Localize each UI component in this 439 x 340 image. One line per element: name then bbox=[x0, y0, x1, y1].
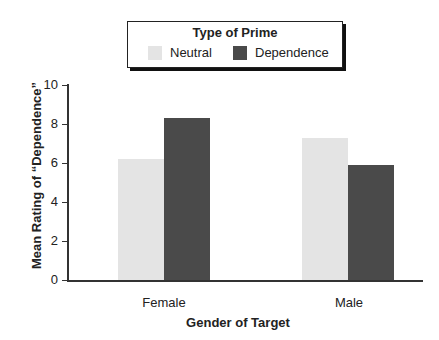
category-label-female: Female bbox=[124, 295, 204, 310]
legend: Type of Prime Neutral Dependence bbox=[127, 21, 343, 68]
legend-title: Type of Prime bbox=[128, 25, 342, 40]
y-tick-label: 4 bbox=[38, 194, 58, 209]
legend-label-neutral: Neutral bbox=[170, 45, 212, 60]
y-axis-line bbox=[67, 84, 69, 281]
bar-female-dependence bbox=[164, 118, 210, 280]
bar-female-neutral bbox=[118, 159, 164, 280]
y-tick-label: 6 bbox=[38, 155, 58, 170]
y-tick-label: 0 bbox=[38, 272, 58, 287]
legend-swatch-dependence bbox=[233, 46, 247, 60]
bar-male-dependence bbox=[348, 165, 394, 280]
x-axis-line bbox=[67, 280, 423, 282]
legend-label-dependence: Dependence bbox=[255, 45, 329, 60]
legend-item-neutral: Neutral bbox=[148, 45, 212, 60]
y-tick-label: 10 bbox=[38, 77, 58, 92]
legend-swatch-neutral bbox=[148, 46, 162, 60]
x-axis-label: Gender of Target bbox=[138, 315, 338, 330]
bar-male-neutral bbox=[302, 138, 348, 280]
y-tick-label: 2 bbox=[38, 233, 58, 248]
y-tick-label: 8 bbox=[38, 116, 58, 131]
category-label-male: Male bbox=[309, 295, 389, 310]
legend-item-dependence: Dependence bbox=[233, 45, 329, 60]
